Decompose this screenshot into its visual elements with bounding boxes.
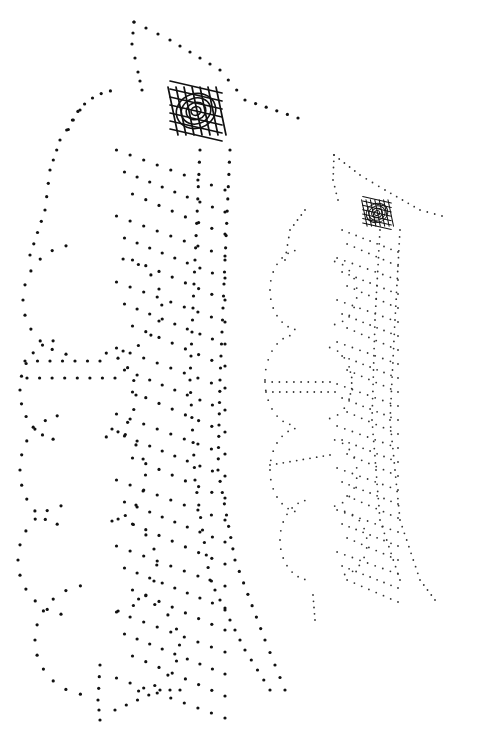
spiral-eye-motif-large <box>168 81 226 141</box>
lace-pricking-drawing <box>0 0 484 748</box>
spiral-eye-motif-small <box>362 197 394 230</box>
large-lace-pattern <box>16 20 299 721</box>
small-lace-pattern <box>264 154 443 621</box>
